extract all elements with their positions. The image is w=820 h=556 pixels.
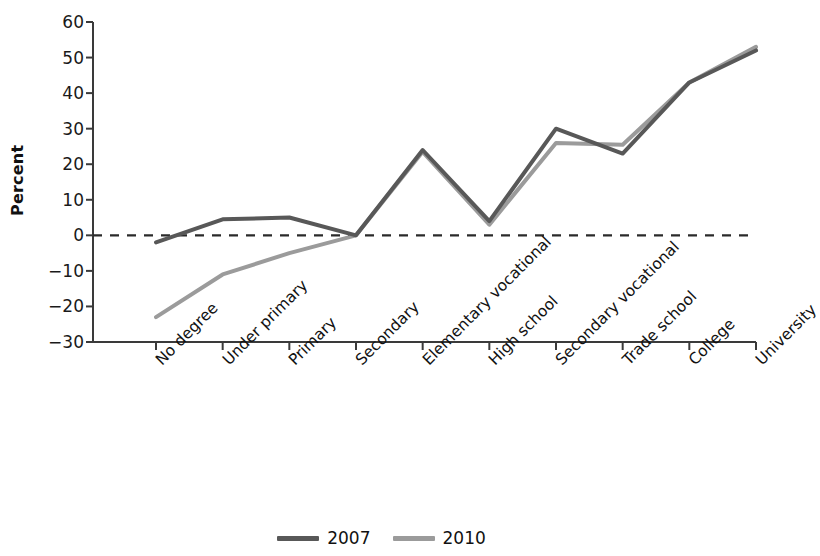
legend-label: 2007 <box>327 528 370 548</box>
chart-legend: 20072010 <box>0 528 763 548</box>
series-line-2010 <box>156 47 756 317</box>
legend-item[interactable]: 2007 <box>277 528 370 548</box>
legend-swatch-icon <box>393 536 435 541</box>
legend-item[interactable]: 2010 <box>393 528 486 548</box>
legend-swatch-icon <box>277 536 319 541</box>
series-line-2007 <box>156 50 756 242</box>
legend-label: 2010 <box>443 528 486 548</box>
